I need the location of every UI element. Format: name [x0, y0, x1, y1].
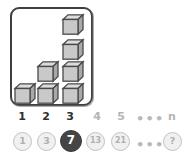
column-label-n: n: [165, 110, 179, 124]
column-label-ellipsis: •••: [136, 113, 156, 125]
sequence-ellipsis: •••: [136, 139, 156, 151]
cube-c3-r2: [63, 61, 83, 81]
cube-c2-r2: [38, 61, 58, 81]
sequence-circle-unknown[interactable]: ?: [163, 132, 182, 151]
cube-sequence-figure: 1 2 3 4 5 ••• n 1 3 7 13 21 ••• ?: [0, 0, 193, 157]
sequence-circle-13[interactable]: 13: [86, 132, 105, 151]
sequence-circle-1[interactable]: 1: [13, 132, 32, 151]
cube-c3-r3: [63, 39, 83, 59]
cube-c2-r1: [38, 83, 58, 103]
sequence-circle-7-active[interactable]: 7: [60, 130, 82, 152]
column-label-1: 1: [15, 110, 29, 124]
sequence-circle-21[interactable]: 21: [111, 132, 130, 151]
column-label-2: 2: [39, 110, 53, 124]
column-label-5: 5: [114, 110, 128, 124]
cube-c1-r1: [15, 83, 35, 103]
column-label-4: 4: [90, 110, 104, 124]
cube-c3-r1: [63, 83, 83, 103]
sequence-circle-3[interactable]: 3: [37, 132, 56, 151]
cube-c3-r4: [63, 14, 83, 34]
column-label-3: 3: [63, 110, 77, 124]
